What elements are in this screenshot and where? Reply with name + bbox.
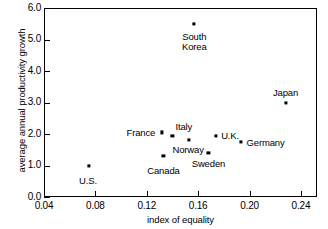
point-label-japan: Japan — [273, 88, 298, 99]
point-label-us: U.S. — [79, 176, 97, 187]
point-label-uk: U.K. — [221, 131, 239, 142]
point-label-canada: Canada — [147, 166, 179, 177]
point-label-france: France — [127, 128, 156, 139]
y-tick-label: 5.0 — [28, 33, 41, 44]
data-point-japan — [284, 101, 287, 104]
x-tick-mark — [44, 191, 45, 197]
data-point-uk — [215, 134, 218, 137]
plot-area — [44, 8, 317, 197]
x-tick-label: 0.24 — [292, 200, 311, 211]
x-tick-mark — [95, 191, 96, 197]
y-tick-mark — [44, 40, 50, 41]
y-tick-mark — [44, 8, 50, 9]
x-tick-label: 0.16 — [189, 200, 208, 211]
data-point-us — [87, 164, 90, 167]
y-tick-label: 1.0 — [28, 159, 41, 170]
x-tick-mark — [147, 191, 148, 197]
data-point-italy — [171, 135, 174, 138]
y-tick-mark — [44, 134, 50, 135]
data-point-germany — [239, 140, 242, 143]
data-point-canada — [162, 154, 165, 157]
y-tick-mark — [44, 166, 50, 167]
y-tick-mark — [44, 103, 50, 104]
point-label-south-korea: South Korea — [182, 32, 207, 53]
x-axis-title: index of equality — [44, 214, 317, 225]
data-point-france — [161, 131, 164, 134]
point-label-sweden: Sweden — [192, 159, 225, 170]
y-tick-mark — [44, 71, 50, 72]
point-label-italy: Italy — [175, 122, 192, 133]
y-tick-label: 3.0 — [28, 96, 41, 107]
y-tick-label: 4.0 — [28, 65, 41, 76]
x-tick-mark — [250, 191, 251, 197]
x-tick-label: 0.08 — [86, 200, 105, 211]
x-tick-mark — [198, 191, 199, 197]
scatter-chart: average annual productivity growth 0.01.… — [0, 0, 328, 229]
point-label-germany: Germany — [247, 138, 285, 149]
y-tick-label: 6.0 — [28, 2, 41, 13]
x-tick-mark — [301, 191, 302, 197]
y-axis-title: average annual productivity growth — [16, 6, 27, 196]
data-point-norway — [188, 139, 191, 142]
data-point-sweden — [207, 151, 210, 154]
y-tick-label: 2.0 — [28, 128, 41, 139]
x-tick-label: 0.12 — [137, 200, 156, 211]
point-label-norway: Norway — [173, 145, 204, 156]
x-tick-label: 0.04 — [35, 200, 54, 211]
y-tick-mark — [44, 197, 50, 198]
x-tick-label: 0.20 — [240, 200, 259, 211]
data-point-south-korea — [193, 22, 196, 25]
